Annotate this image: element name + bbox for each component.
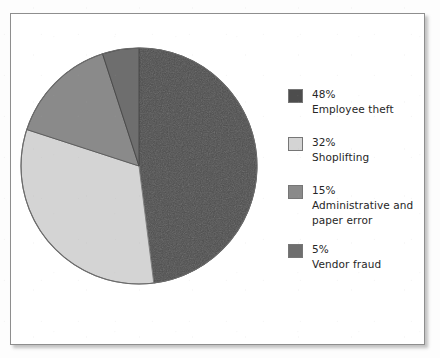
legend-label-line-2: paper error <box>312 213 423 228</box>
legend-swatch-icon <box>288 89 303 103</box>
pie-chart-area: 48% Employee theft 32% Shoplifting 15% A… <box>11 14 424 344</box>
legend-label: Employee theft <box>312 102 423 117</box>
legend-item-shoplifting[interactable]: 32% Shoplifting <box>288 135 423 169</box>
legend-item-employee-theft[interactable]: 48% Employee theft <box>288 87 423 121</box>
legend-swatch-icon <box>288 137 303 151</box>
legend-item-administrative-and-paper-error[interactable]: 15% Administrative and paper error <box>288 183 423 228</box>
pie-chart <box>19 36 269 296</box>
figure-root: 48% Employee theft 32% Shoplifting 15% A… <box>0 0 440 358</box>
legend-percent: 32% <box>312 135 423 150</box>
legend-label: Vendor fraud <box>312 257 423 272</box>
legend-swatch-icon <box>288 185 303 199</box>
legend-percent: 5% <box>312 242 423 257</box>
pie-slices <box>21 48 257 284</box>
figure-frame: 48% Employee theft 32% Shoplifting 15% A… <box>10 13 425 345</box>
legend-item-vendor-fraud[interactable]: 5% Vendor fraud <box>288 242 423 276</box>
legend-percent: 48% <box>312 87 423 102</box>
legend-percent: 15% <box>312 183 423 198</box>
legend-label-line-1: Administrative and <box>312 198 423 213</box>
chart-legend: 48% Employee theft 32% Shoplifting 15% A… <box>288 87 423 290</box>
pie-slice-employee-theft[interactable] <box>139 48 257 283</box>
legend-label: Shoplifting <box>312 150 423 165</box>
legend-swatch-icon <box>288 244 303 258</box>
